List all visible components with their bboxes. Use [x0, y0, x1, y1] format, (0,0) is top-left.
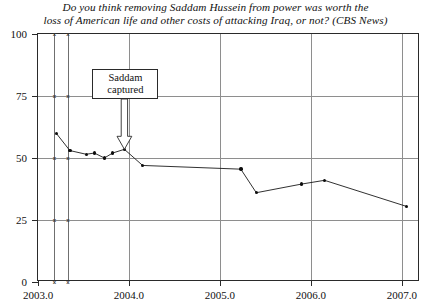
plot-inner: xxxxxxxxxx Saddam captured: [38, 34, 418, 280]
y-axis-label-0: 0: [0, 277, 27, 288]
y-axis-label-75: 75: [0, 91, 27, 102]
y-axis-label-100: 100: [0, 29, 27, 40]
annotation-line-1: Saddam: [93, 72, 157, 84]
chart-title-line-1: Do you think removing Saddam Hussein fro…: [0, 1, 431, 14]
x-axis-label-2003.0: 2003.0: [8, 290, 68, 301]
chart-title: Do you think removing Saddam Hussein fro…: [0, 1, 431, 27]
x-axis-label-2005.0: 2005.0: [190, 290, 250, 301]
y-axis-label-50: 50: [0, 153, 27, 164]
annotation-saddam-captured: Saddam captured: [92, 69, 158, 99]
y-axis-label-25: 25: [0, 215, 27, 226]
x-axis-label-2004.0: 2004.0: [99, 290, 159, 301]
chart-title-line-2: loss of American life and other costs of…: [0, 14, 431, 27]
x-axis-label-2006.0: 2006.0: [281, 290, 341, 301]
x-axis-label-2007.0: 2007.0: [372, 290, 431, 301]
plot-area: xxxxxxxxxx Saddam captured 0255075100 20…: [37, 33, 419, 281]
annotation-line-2: captured: [93, 84, 157, 96]
hollow-down-arrow-shape: [117, 99, 132, 149]
chart-figure: Do you think removing Saddam Hussein fro…: [0, 0, 431, 303]
